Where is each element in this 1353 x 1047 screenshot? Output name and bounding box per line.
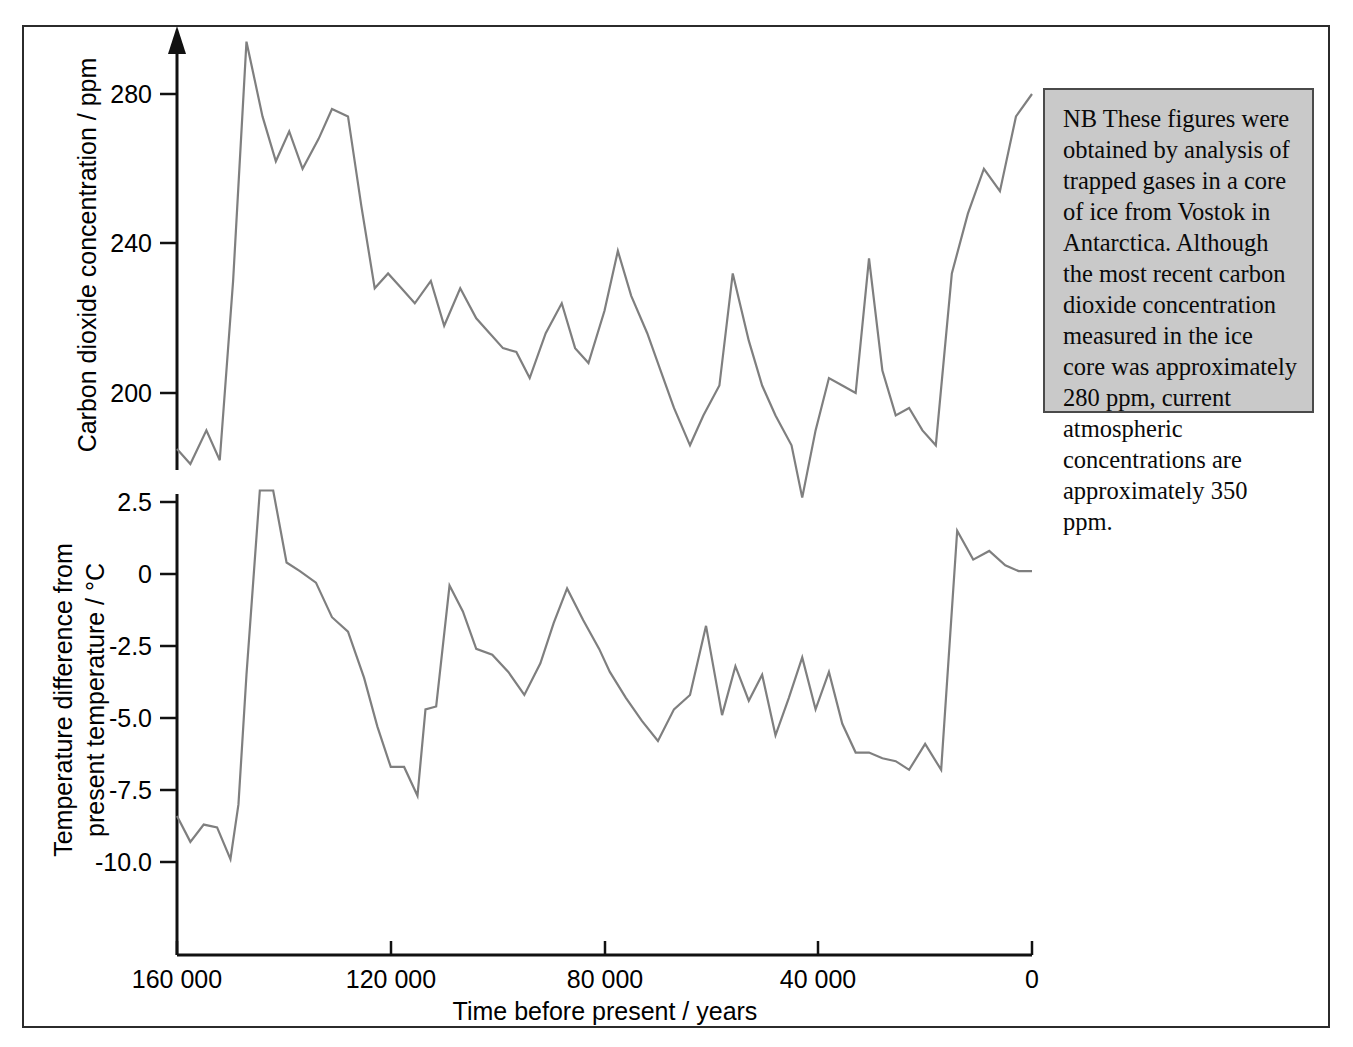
temperature-data-line (177, 490, 1032, 859)
note-box: NB These figures were obtained by analys… (1043, 88, 1314, 413)
x-ticks (177, 941, 1032, 955)
plot-area: 280 240 200 Carbon dioxide concentration… (0, 0, 1353, 1047)
note-box-text: NB These figures were obtained by analys… (1063, 104, 1298, 538)
co2-panel: 280 240 200 Carbon dioxide concentration… (73, 26, 1032, 498)
x-axis-title: Time before present / years (453, 997, 758, 1025)
co2-ytick-label-2: 200 (110, 379, 152, 407)
co2-y-ticks (160, 94, 177, 393)
temp-y-ticks (160, 502, 177, 862)
temp-y-axis-title: Temperature difference from (49, 543, 77, 857)
temp-ytick-label-4: -7.5 (109, 776, 152, 804)
temp-y-axis-title-line2: present temperature / °C (81, 563, 109, 837)
co2-y-axis-arrowhead (168, 26, 186, 54)
xtick-label-1: 120 000 (346, 965, 436, 993)
temperature-panel: 2.5 0 -2.5 -5.0 -7.5 -10.0 Temperature d… (49, 488, 1032, 955)
temp-ytick-label-2: -2.5 (109, 632, 152, 660)
temp-ytick-label-1: 0 (138, 560, 152, 588)
co2-data-line (177, 42, 1032, 498)
xtick-label-4: 0 (1025, 965, 1039, 993)
co2-y-axis-title: Carbon dioxide concentration / ppm (73, 58, 101, 453)
xtick-label-2: 80 000 (567, 965, 643, 993)
x-axis-group: 160 000 120 000 80 000 40 000 0 Time bef… (132, 941, 1039, 1025)
temp-ytick-label-0: 2.5 (117, 488, 152, 516)
temp-ytick-label-3: -5.0 (109, 704, 152, 732)
xtick-label-0: 160 000 (132, 965, 222, 993)
figure-root: 280 240 200 Carbon dioxide concentration… (0, 0, 1353, 1047)
co2-ytick-label-0: 280 (110, 80, 152, 108)
xtick-label-3: 40 000 (780, 965, 856, 993)
temp-ytick-label-5: -10.0 (95, 848, 152, 876)
co2-ytick-label-1: 240 (110, 229, 152, 257)
